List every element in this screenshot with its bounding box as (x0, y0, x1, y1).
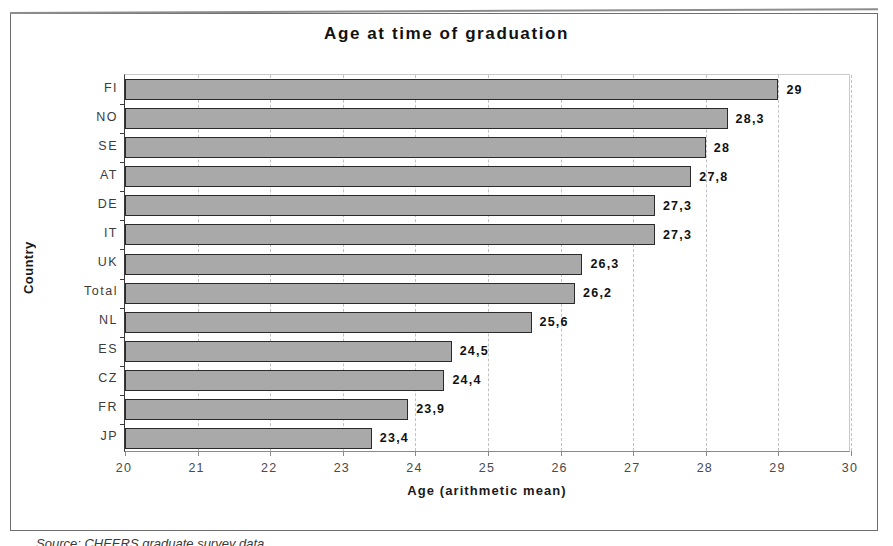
y-axis-category-label: JP (8, 429, 118, 443)
y-axis-category-label: FI (8, 81, 118, 95)
x-axis-tick-label: 27 (612, 461, 652, 475)
x-axis-tick (778, 451, 779, 456)
bar-at[interactable] (125, 166, 691, 187)
x-axis-tick (561, 451, 562, 456)
x-axis-tick (270, 451, 271, 456)
x-axis-tick-label: 26 (540, 461, 580, 475)
bar-row: 26,3 (125, 254, 851, 275)
source-caption: Source: CHEERS graduate survey data (36, 536, 264, 546)
y-axis-tick (120, 220, 125, 221)
bar-value-label: 24,4 (452, 373, 481, 387)
bar-cz[interactable] (125, 370, 444, 391)
y-axis-category-label: SE (8, 139, 118, 153)
bar-value-label: 25,6 (540, 315, 569, 329)
bar-row: 29 (125, 79, 851, 100)
bar-row: 27,8 (125, 166, 851, 187)
bar-value-label: 24,5 (460, 344, 489, 358)
x-axis-tick-label: 30 (830, 461, 870, 475)
bar-row: 24,4 (125, 370, 851, 391)
bar-row: 28,3 (125, 108, 851, 129)
x-axis-tick (198, 451, 199, 456)
bar-fi[interactable] (125, 79, 778, 100)
x-axis-tick-label: 29 (757, 461, 797, 475)
y-axis-category-label: NL (8, 313, 118, 327)
bar-uk[interactable] (125, 254, 582, 275)
bar-value-label: 28 (714, 141, 730, 155)
y-axis-tick (120, 249, 125, 250)
bar-es[interactable] (125, 341, 452, 362)
bar-row: 23,9 (125, 399, 851, 420)
x-axis-tick (706, 451, 707, 456)
bar-row: 27,3 (125, 224, 851, 245)
bar-total[interactable] (125, 283, 575, 304)
y-axis-tick (120, 395, 125, 396)
bar-value-label: 27,3 (663, 228, 692, 242)
chart-screenshot: Age at time of graduation Country 2928,3… (0, 0, 893, 546)
x-axis-tick (851, 451, 852, 456)
x-axis-tick-label: 23 (322, 461, 362, 475)
bar-value-label: 27,3 (663, 199, 692, 213)
y-axis-tick (120, 162, 125, 163)
y-axis-category-label: NO (8, 110, 118, 124)
chart-title: Age at time of graduation (0, 24, 893, 44)
bar-value-label: 26,3 (590, 257, 619, 271)
x-axis-tick-label: 20 (104, 461, 144, 475)
x-axis-tick (415, 451, 416, 456)
y-axis-tick (120, 279, 125, 280)
x-axis-tick-label: 22 (249, 461, 289, 475)
x-axis-tick (488, 451, 489, 456)
x-axis-tick-label: 28 (685, 461, 725, 475)
x-axis-tick-label: 25 (467, 461, 507, 475)
bar-value-label: 28,3 (736, 112, 765, 126)
bar-value-label: 29 (786, 83, 802, 97)
y-axis-tick (120, 191, 125, 192)
bar-it[interactable] (125, 224, 655, 245)
y-axis-tick (120, 424, 125, 425)
y-axis-category-label: FR (8, 400, 118, 414)
bar-se[interactable] (125, 137, 706, 158)
bar-row: 28 (125, 137, 851, 158)
y-axis-tick (120, 308, 125, 309)
y-axis-tick (120, 104, 125, 105)
y-axis-tick (120, 133, 125, 134)
x-axis-tick (633, 451, 634, 456)
bar-value-label: 23,4 (380, 431, 409, 445)
bar-row: 25,6 (125, 312, 851, 333)
bar-nl[interactable] (125, 312, 532, 333)
bar-value-label: 26,2 (583, 286, 612, 300)
gridline (851, 75, 852, 451)
x-axis-tick-label: 24 (394, 461, 434, 475)
plot-area: 2928,32827,827,327,326,326,225,624,524,4… (124, 74, 850, 452)
y-axis-category-label: CZ (8, 371, 118, 385)
y-axis-tick (120, 366, 125, 367)
y-axis-category-label: ES (8, 342, 118, 356)
bar-no[interactable] (125, 108, 728, 129)
bar-value-label: 27,8 (699, 170, 728, 184)
y-axis-category-label: IT (8, 226, 118, 240)
bar-row: 26,2 (125, 283, 851, 304)
bar-row: 23,4 (125, 428, 851, 449)
x-axis-tick (125, 451, 126, 456)
bar-row: 27,3 (125, 195, 851, 216)
y-axis-category-label: DE (8, 197, 118, 211)
bar-de[interactable] (125, 195, 655, 216)
bar-row: 24,5 (125, 341, 851, 362)
x-axis-tick-label: 21 (177, 461, 217, 475)
y-axis-category-label: UK (8, 255, 118, 269)
x-axis-tick (343, 451, 344, 456)
bar-fr[interactable] (125, 399, 408, 420)
y-axis-tick (120, 337, 125, 338)
x-axis-title: Age (arithmetic mean) (124, 483, 850, 498)
y-axis-category-label: AT (8, 168, 118, 182)
y-axis-category-label: Total (8, 284, 118, 298)
bar-jp[interactable] (125, 428, 372, 449)
bar-value-label: 23,9 (416, 402, 445, 416)
